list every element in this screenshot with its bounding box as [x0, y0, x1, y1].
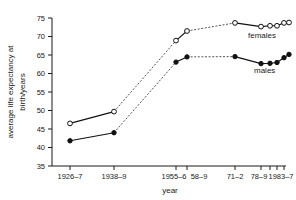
x-tick-label-4: 71–2: [227, 172, 244, 181]
males-point-71-2: [233, 54, 237, 58]
y-tick-label-2: 45: [37, 125, 45, 134]
females-point-1955-6: [174, 38, 179, 43]
males-point-1985: [282, 56, 286, 60]
y-tick-label-1: 40: [37, 143, 45, 152]
females-point-1983: [275, 23, 280, 28]
y-tick-label-0: 35: [37, 162, 45, 171]
chart-svg: 35 40 45 50 55 60 65 70 75 1926–7 1938–9: [0, 0, 296, 200]
females-dashed-segment-2: [187, 23, 235, 31]
series-label-males: males: [254, 66, 275, 75]
females-dashed-segment-1: [114, 41, 176, 112]
males-point-1926-7: [68, 139, 72, 143]
x-tick-label-0: 1926–7: [57, 172, 82, 181]
females-point-78-9: [259, 24, 264, 29]
y-tick-label-5: 60: [37, 69, 45, 78]
females-solid-segment-1: [70, 112, 114, 124]
females-point-58-9: [185, 29, 190, 34]
x-axis-ticks: [70, 166, 284, 170]
females-point-1926-7: [68, 121, 73, 126]
y-axis-title-line1: average life expectancy at: [6, 45, 15, 139]
series-label-females: females: [248, 31, 276, 40]
y-axis-tick-labels: 35 40 45 50 55 60 65 70 75: [37, 14, 45, 171]
x-tick-label-2: 1955–6: [161, 172, 186, 181]
females-point-1981: [268, 23, 273, 28]
females-point-1985: [282, 21, 287, 26]
x-tick-label-1: 1938–9: [101, 172, 126, 181]
females-point-71-2: [233, 21, 238, 26]
x-tick-label-6: 1983–7: [268, 172, 293, 181]
y-tick-label-8: 75: [37, 14, 45, 23]
males-point-1987: [287, 52, 291, 56]
y-tick-label-4: 55: [37, 88, 45, 97]
x-axis-title: year: [162, 186, 178, 195]
x-tick-label-3: 58–9: [191, 172, 208, 181]
males-point-1955-6: [174, 60, 178, 64]
males-point-58-9: [185, 55, 189, 59]
y-axis-title: average life expectancy at birth/years: [6, 45, 27, 139]
x-tick-label-5: 78–9: [251, 172, 268, 181]
life-expectancy-chart: 35 40 45 50 55 60 65 70 75 1926–7 1938–9: [0, 0, 296, 200]
y-tick-label-3: 50: [37, 106, 45, 115]
x-axis-tick-labels: 1926–7 1938–9 1955–6 58–9 71–2 78–9 1983…: [57, 172, 293, 181]
y-axis-title-line2: birth/years: [18, 73, 27, 110]
y-tick-label-6: 65: [37, 51, 45, 60]
males-point-1981: [268, 61, 272, 65]
males-solid-segment-1: [70, 133, 114, 141]
males-dashed-segment-1: [114, 62, 176, 133]
y-tick-label-7: 70: [37, 32, 45, 41]
y-axis-ticks: [48, 18, 52, 166]
females-point-1938-9: [112, 109, 117, 114]
males-point-1938-9: [112, 131, 116, 135]
series-males: males: [68, 52, 291, 143]
males-point-1983: [275, 60, 279, 64]
females-point-1987: [287, 20, 292, 25]
